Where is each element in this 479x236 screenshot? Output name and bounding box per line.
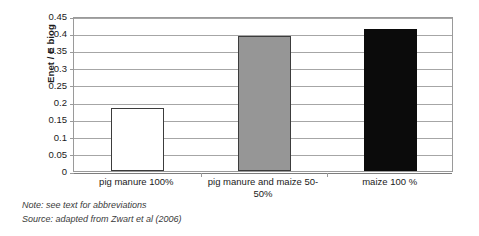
y-axis-tick-mark <box>70 18 74 19</box>
y-axis-tick-mark <box>70 69 74 70</box>
x-axis-category-label: pig manure and maize 50-50% <box>200 176 327 200</box>
y-axis-tick-mark <box>70 35 74 36</box>
y-axis-tick-mark <box>70 121 74 122</box>
footnotes: Note: see text for abbreviations Source:… <box>22 198 442 226</box>
figure-container: Enet / E biog 00.050.10.150.20.250.30.35… <box>0 0 479 236</box>
bar-chart: Enet / E biog 00.050.10.150.20.250.30.35… <box>0 0 479 196</box>
y-axis-tick-mark <box>70 138 74 139</box>
y-axis-tick-mark <box>70 104 74 105</box>
bar <box>238 36 291 171</box>
y-axis-tick-label: 0.1 <box>54 133 67 143</box>
x-axis-category-label: maize 100 % <box>326 176 453 188</box>
y-axis-tick-mark <box>70 52 74 53</box>
bar <box>364 29 417 171</box>
bar <box>111 108 164 171</box>
gridline <box>74 173 452 174</box>
y-axis-tick-label: 0.15 <box>49 116 68 126</box>
y-axis-tick-label: 0.35 <box>49 47 68 57</box>
y-axis-tick-labels: 00.050.10.150.20.250.30.350.40.45 <box>30 17 70 172</box>
y-axis-tick-mark <box>70 86 74 87</box>
footnote-source: Source: adapted from Zwart et al (2006) <box>22 212 442 226</box>
y-axis-tick-label: 0.45 <box>49 12 68 22</box>
x-axis-category-label: pig manure 100% <box>73 176 200 188</box>
plot-area <box>73 17 453 172</box>
y-axis-tick-mark <box>70 155 74 156</box>
footnote-note: Note: see text for abbreviations <box>22 198 442 212</box>
y-axis-tick-label: 0.3 <box>54 64 67 74</box>
y-axis-tick-label: 0.05 <box>49 150 68 160</box>
y-axis-tick-label: 0.25 <box>49 81 68 91</box>
y-axis-tick-label: 0.2 <box>54 98 67 108</box>
y-axis-tick-label: 0.4 <box>54 29 67 39</box>
y-axis-tick-mark <box>70 173 74 174</box>
y-axis-tick-label: 0 <box>62 167 67 177</box>
bar-series <box>74 18 452 171</box>
